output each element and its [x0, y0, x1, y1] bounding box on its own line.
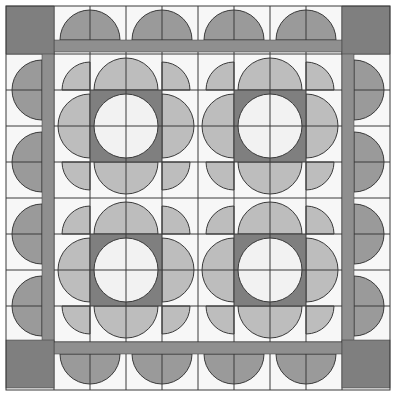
strip-right — [342, 52, 354, 342]
strip-top — [54, 40, 342, 52]
corner-square — [342, 6, 390, 54]
strip-left — [42, 52, 54, 342]
corner-square — [6, 340, 54, 388]
quilt-pattern — [0, 0, 394, 395]
corner-square — [6, 6, 54, 54]
strip-bottom — [54, 342, 342, 354]
corner-square — [342, 340, 390, 388]
